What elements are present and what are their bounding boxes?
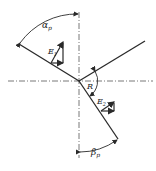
e1-label: E1 — [47, 47, 57, 57]
r-label: R — [86, 82, 93, 91]
alpha-label: αp — [42, 20, 52, 32]
optics-diagram: αp R βp E1 E2 — [0, 0, 156, 171]
reflected-ray — [79, 41, 145, 81]
e2-label: E2 — [96, 97, 106, 107]
refracted-ray — [79, 81, 118, 139]
